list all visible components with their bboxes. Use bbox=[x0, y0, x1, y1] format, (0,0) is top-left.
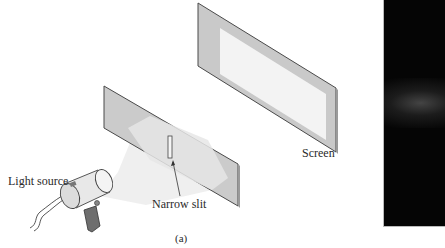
panel-label: (a) bbox=[175, 233, 187, 244]
light-source-label: Light source bbox=[8, 175, 68, 187]
screen-label: Screen bbox=[302, 147, 335, 159]
bright-band bbox=[384, 78, 445, 128]
screen-panel bbox=[198, 3, 338, 154]
narrow-slit-label: Narrow slit bbox=[152, 198, 206, 210]
slit-pattern-photo bbox=[383, 0, 445, 227]
narrow-slit bbox=[168, 136, 172, 158]
